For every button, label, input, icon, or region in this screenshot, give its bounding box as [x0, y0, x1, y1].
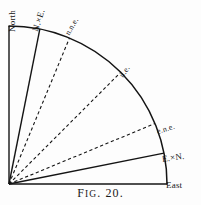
- figure-caption: FIG. 20.: [0, 186, 201, 201]
- label-north: North: [7, 10, 17, 32]
- rays-group: [9, 26, 167, 184]
- ray-ene: [9, 124, 155, 184]
- caption-smallcaps: IG: [85, 189, 97, 199]
- caption-prefix: F: [77, 186, 85, 200]
- ray-ne: [9, 29, 40, 184]
- ray-nne: [9, 38, 69, 184]
- ray-ne: [9, 72, 121, 184]
- compass-diagram: [0, 0, 201, 205]
- caption-suffix: . 20.: [97, 186, 124, 200]
- ray-en: [9, 153, 164, 184]
- figure-20-compass-rose: NorthN.×E.n.n.e.n.e.e.n.e.E.×N.East FIG.…: [0, 0, 201, 205]
